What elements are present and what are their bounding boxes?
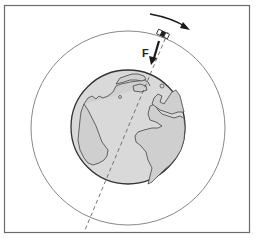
orbit-diagram [0,0,257,240]
earth [71,70,185,184]
force-label: F [142,47,149,59]
